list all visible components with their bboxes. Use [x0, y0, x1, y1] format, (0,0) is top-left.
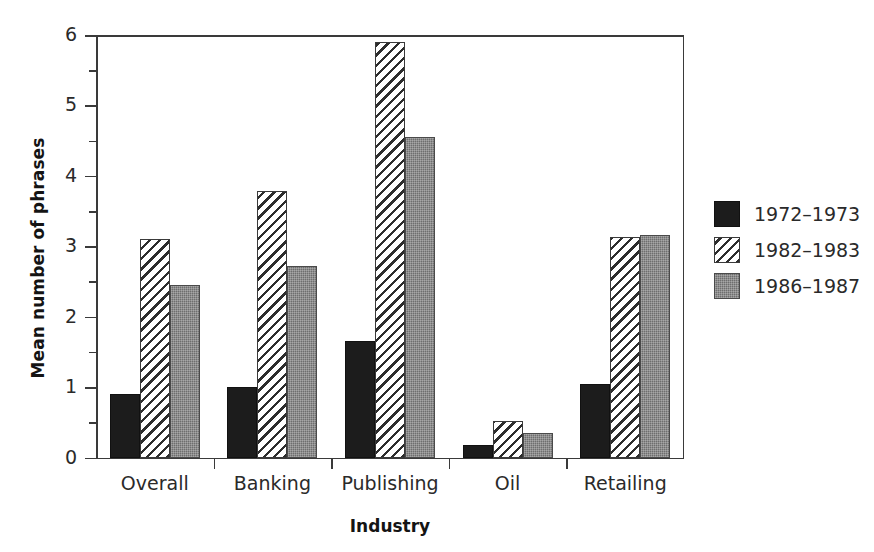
y-tick-minor [89, 352, 96, 354]
x-axis-title: Industry [96, 516, 684, 536]
plot-right-border [683, 35, 685, 459]
y-axis-title: Mean number of phrases [28, 98, 48, 418]
y-tick-major: 4 [85, 176, 96, 178]
bar-publishing-1982-1983 [375, 42, 405, 457]
bar-banking-1986-1987 [287, 266, 317, 458]
legend-label: 1986–1987 [754, 275, 860, 297]
y-tick-minor [89, 141, 96, 143]
bar-retailing-1982-1983 [610, 237, 640, 457]
x-category-label-publishing: Publishing [341, 472, 438, 494]
bar-retailing-1986-1987 [640, 235, 670, 458]
y-tick-label: 0 [65, 447, 77, 467]
x-tick-separator [214, 458, 216, 469]
y-tick-minor [89, 70, 96, 72]
x-tick-separator [331, 458, 333, 469]
y-tick-major: 1 [85, 387, 96, 389]
bar-overall-1986-1987 [170, 285, 200, 458]
bar-publishing-1972-1973 [345, 341, 375, 457]
legend-item: 1972–1973 [714, 196, 860, 232]
y-tick-major: 0 [85, 458, 96, 460]
legend-label: 1972–1973 [754, 203, 860, 225]
chart-legend: 1972–19731982–19831986–1987 [714, 196, 860, 304]
bar-publishing-1986-1987 [405, 137, 435, 457]
x-category-label-oil: Oil [495, 472, 521, 494]
y-tick-major: 5 [85, 105, 96, 107]
legend-swatch-icon [714, 201, 740, 227]
legend-swatch-icon [714, 237, 740, 263]
legend-swatch-icon [714, 273, 740, 299]
bar-banking-1972-1973 [227, 387, 257, 457]
legend-label: 1982–1983 [754, 239, 860, 261]
y-tick-major: 6 [85, 35, 96, 37]
y-tick-minor [89, 281, 96, 283]
legend-item: 1986–1987 [714, 268, 860, 304]
y-tick-major: 2 [85, 317, 96, 319]
bar-overall-1972-1973 [110, 394, 140, 457]
y-axis-line [96, 35, 98, 459]
bar-overall-1982-1983 [140, 239, 170, 457]
plot-top-border [96, 35, 684, 37]
y-tick-label: 4 [65, 165, 77, 185]
y-tick-major: 3 [85, 246, 96, 248]
x-axis-line [96, 458, 684, 460]
plot-area: 0123456 [96, 35, 684, 459]
bar-oil-1986-1987 [523, 433, 553, 458]
x-category-label-retailing: Retailing [584, 472, 667, 494]
y-tick-minor [89, 422, 96, 424]
legend-item: 1982–1983 [714, 232, 860, 268]
y-tick-label: 1 [65, 376, 77, 396]
y-tick-minor [89, 211, 96, 213]
bar-oil-1972-1973 [463, 445, 493, 458]
bar-banking-1982-1983 [257, 191, 287, 457]
y-tick-label: 2 [65, 306, 77, 326]
bar-oil-1982-1983 [493, 421, 523, 458]
x-category-label-overall: Overall [121, 472, 189, 494]
x-tick-separator [449, 458, 451, 469]
x-tick-separator [566, 458, 568, 469]
y-tick-label: 5 [65, 94, 77, 114]
y-tick-label: 3 [65, 235, 77, 255]
bar-chart-figure: Mean number of phrases 0123456 OverallBa… [0, 0, 874, 552]
x-category-label-banking: Banking [234, 472, 311, 494]
y-tick-label: 6 [65, 24, 77, 44]
bar-retailing-1972-1973 [580, 384, 610, 458]
